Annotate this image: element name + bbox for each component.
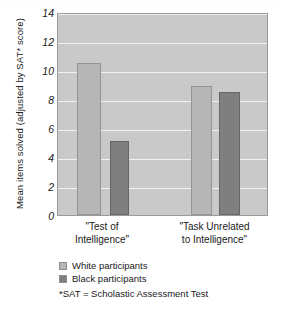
legend-label-white: White participants [72,259,148,272]
legend-item-white: White participants [59,259,148,272]
legend-item-black: Black participants [59,272,148,285]
bar-chart-figure: Mean items solved (adjusted by SAT* scor… [0,0,282,310]
y-axis-tick-labels: 14121086420 [28,0,54,310]
legend-swatch-icon-white [59,262,67,270]
y-tick-label-2: 2 [30,182,54,193]
plot-shadow [267,18,268,216]
y-tick-label-8: 8 [30,95,54,106]
y-tick-label-12: 12 [30,37,54,48]
x-axis-category-label-0: "Test of Intelligence" [47,221,157,246]
plot-area [57,13,268,216]
y-tick-label-6: 6 [30,124,54,135]
bar-white-group-1 [191,86,212,215]
footnote: *SAT = Scholastic Assessment Test [59,288,208,299]
gridline-14 [58,14,267,15]
y-tick-label-0: 0 [30,211,54,222]
legend: White participants Black participants [59,259,148,285]
legend-label-black: Black participants [72,272,146,285]
x-axis-category-label-1: "Task Unrelated to Intelligence" [160,221,270,246]
bar-black-group-0 [110,141,129,215]
y-tick-label-10: 10 [30,66,54,77]
y-tick-label-4: 4 [30,153,54,164]
y-tick-label-14: 14 [30,8,54,19]
legend-swatch-icon-black [59,275,67,283]
gridline-12 [58,43,267,44]
y-axis-title: Mean items solved (adjusted by SAT* scor… [14,9,25,219]
bar-black-group-1 [219,92,240,215]
bar-white-group-0 [77,63,101,215]
